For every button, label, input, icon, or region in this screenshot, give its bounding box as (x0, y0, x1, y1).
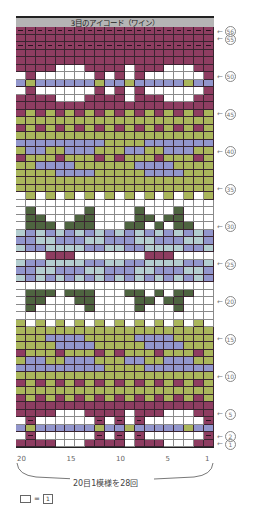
row-label-1: ←1 (217, 439, 236, 450)
chart-cell (164, 410, 174, 418)
chart-cell (75, 215, 85, 223)
chart-cell (75, 200, 85, 208)
row-number: 1 (225, 439, 236, 450)
chart-cell (174, 177, 184, 185)
chart-cell (155, 432, 165, 440)
chart-cell (75, 290, 85, 298)
chart-cell (145, 170, 155, 178)
chart-cell (36, 132, 46, 140)
arrow-left-icon: ← (217, 110, 223, 118)
chart-cell (194, 410, 204, 418)
chart-cell (145, 282, 155, 290)
chart-cell (174, 365, 184, 373)
chart-cell (95, 125, 105, 133)
legend-equals: = (34, 495, 40, 503)
chart-cell (46, 327, 56, 335)
chart-cell (135, 297, 145, 305)
chart-cell (194, 387, 204, 395)
chart-cell (155, 342, 165, 350)
chart-cell (95, 275, 105, 283)
chart-cell (135, 155, 145, 163)
chart-cell (26, 42, 36, 50)
chart-cell (95, 200, 105, 208)
chart-cell (46, 350, 56, 358)
row-label-40: ←40 (217, 146, 236, 157)
chart-cell (56, 177, 66, 185)
chart-cell (105, 72, 115, 80)
chart-cell (155, 155, 165, 163)
chart-cell (36, 417, 46, 425)
chart-cell (56, 162, 66, 170)
chart-cell (16, 350, 26, 358)
chart-cell (125, 170, 135, 178)
chart-cell (194, 282, 204, 290)
chart-cell (115, 380, 125, 388)
chart-cell (85, 387, 95, 395)
chart-cell (145, 395, 155, 403)
chart-cell (75, 275, 85, 283)
chart-cell (115, 177, 125, 185)
chart-cell (26, 260, 36, 268)
arrow-left-icon: ← (217, 185, 223, 193)
chart-cell (75, 147, 85, 155)
chart-cell (36, 117, 46, 125)
chart-cell (194, 50, 204, 58)
chart-cell (155, 312, 165, 320)
chart-cell (194, 275, 204, 283)
chart-cell (36, 57, 46, 65)
chart-cell (135, 395, 145, 403)
chart-cell (46, 372, 56, 380)
chart-cell (26, 312, 36, 320)
chart-cell (115, 35, 125, 43)
chart-cell (135, 162, 145, 170)
chart-cell (105, 177, 115, 185)
chart-cell (174, 162, 184, 170)
chart-cell (46, 87, 56, 95)
chart-cell (145, 320, 155, 328)
chart-cell (194, 57, 204, 65)
chart-cell (115, 215, 125, 223)
chart-cell (36, 50, 46, 58)
chart-cell (184, 177, 194, 185)
chart-cell (26, 230, 36, 238)
chart-cell (125, 275, 135, 283)
chart-cell (105, 147, 115, 155)
chart-cell (26, 395, 36, 403)
chart-cell (56, 432, 66, 440)
chart-cell (204, 290, 214, 298)
chart-cell (184, 50, 194, 58)
chart-cell (184, 140, 194, 148)
chart-cell (56, 372, 66, 380)
chart-cell (56, 147, 66, 155)
row-number: 35 (225, 184, 236, 195)
chart-cell (46, 252, 56, 260)
chart-cell (164, 275, 174, 283)
chart-cell (125, 110, 135, 118)
chart-cell (135, 35, 145, 43)
chart-cell (204, 162, 214, 170)
chart-cell (155, 260, 165, 268)
chart-cell (145, 417, 155, 425)
chart-cell (85, 140, 95, 148)
chart-cell (75, 170, 85, 178)
chart-cell (125, 207, 135, 215)
chart-cell (105, 170, 115, 178)
chart-cell (105, 87, 115, 95)
chart-cell (164, 132, 174, 140)
chart-cell (105, 282, 115, 290)
chart-cell (155, 327, 165, 335)
chart-cell (204, 207, 214, 215)
chart-cell (85, 327, 95, 335)
chart-cell (145, 372, 155, 380)
chart-cell (105, 155, 115, 163)
chart-cell (115, 312, 125, 320)
chart-cell (36, 185, 46, 193)
chart-cell (46, 432, 56, 440)
chart-cell (174, 57, 184, 65)
chart-cell (56, 35, 66, 43)
chart-cell (95, 207, 105, 215)
chart-cell (26, 80, 36, 88)
chart-cell (46, 275, 56, 283)
chart-cell (36, 260, 46, 268)
chart-cell (75, 237, 85, 245)
